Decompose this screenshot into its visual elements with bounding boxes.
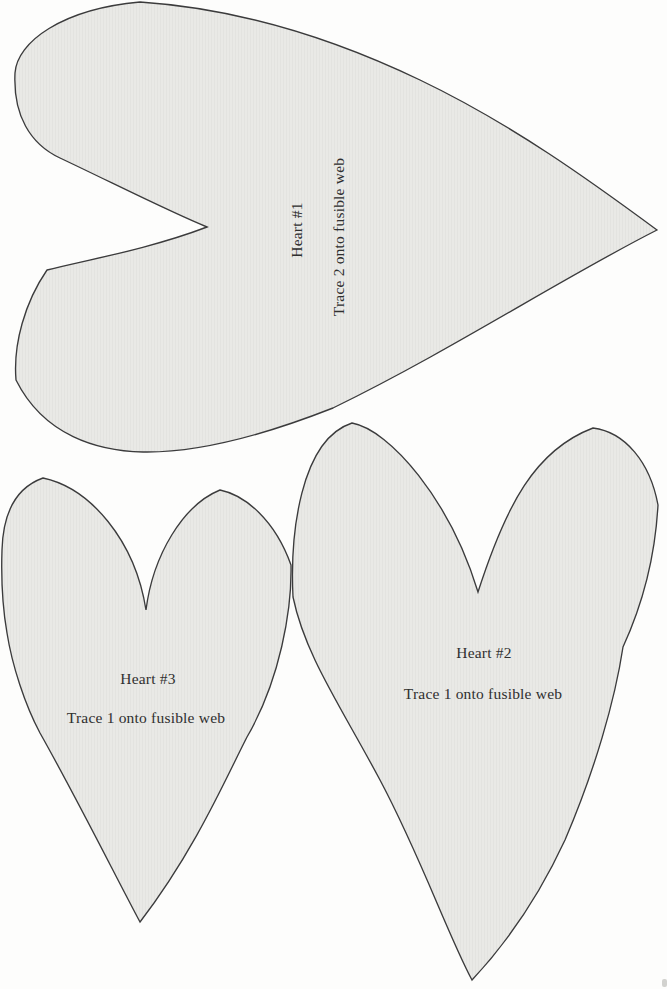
pattern-canvas: Heart #1 Trace 2 onto fusible web Heart …	[0, 0, 667, 989]
heart-3-instruction-label: Trace 1 onto fusible web	[67, 709, 225, 726]
pattern-sheet: Heart #1 Trace 2 onto fusible web Heart …	[0, 0, 667, 989]
scan-artifact	[662, 979, 667, 987]
heart-2-name-label: Heart #2	[456, 644, 511, 661]
heart-3-template-shape	[2, 478, 291, 922]
heart-2-template-shape	[293, 423, 658, 980]
heart-1-instruction-label: Trace 2 onto fusible web	[330, 158, 347, 316]
heart-3-name-label: Heart #3	[120, 670, 175, 687]
heart-1-name-label: Heart #1	[288, 202, 305, 257]
heart-2-instruction-label: Trace 1 onto fusible web	[404, 685, 562, 702]
